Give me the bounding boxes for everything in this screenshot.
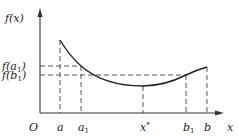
y-tick-label-fb1: f(b1) — [1, 69, 26, 83]
x-tick-labels: aa1x*b1b — [57, 121, 211, 135]
x-tick-label-a: a — [57, 121, 64, 134]
x-axis-arrow-icon — [215, 111, 224, 116]
x-tick-label-b1: b1 — [183, 121, 195, 135]
x-tick-label-a1: a1 — [78, 121, 89, 135]
x-tick-label-b: b — [204, 121, 211, 134]
origin-label: O — [29, 121, 38, 134]
y-tick-labels: f(a1)f(b1) — [1, 60, 26, 83]
x-tick-label-xstar: x* — [140, 121, 150, 134]
function-curve — [60, 40, 207, 86]
x-axis-label: x — [227, 121, 234, 134]
axes — [40, 14, 218, 113]
y-axis-arrow-icon — [38, 8, 43, 17]
function-graph: f(x) x O f(a1)f(b1) aa1x*b1b — [0, 0, 238, 136]
y-axis-label: f(x) — [4, 12, 24, 25]
